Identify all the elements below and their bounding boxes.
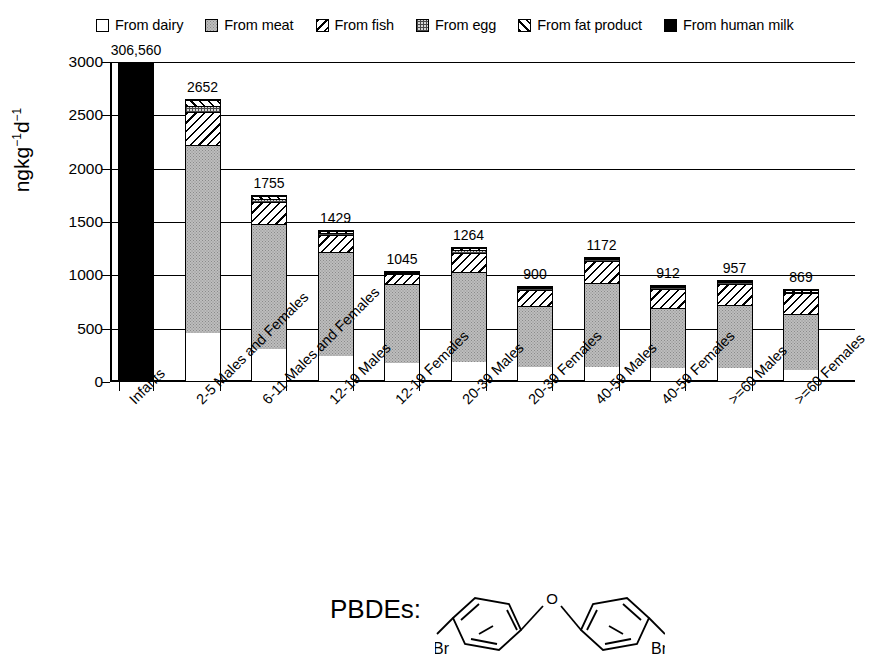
y-axis-tick-label: 2500 [33, 106, 103, 124]
y-axis-tick [102, 275, 110, 276]
legend-item-meat: From meat [205, 17, 293, 33]
legend-item-fish: From fish [316, 17, 395, 33]
oxygen-atom-label: O [546, 590, 558, 607]
bar-segment-meat [585, 283, 619, 367]
y-axis-title: ngkg−1d−1 [10, 108, 34, 193]
legend-item-label: From egg [435, 17, 496, 33]
black-square-icon [664, 19, 677, 32]
bar-segment-fish [585, 261, 619, 284]
y-axis-tick [102, 169, 110, 170]
white-square-icon [96, 19, 109, 32]
legend-item-label: From dairy [115, 17, 183, 33]
bar-segment-meat [186, 145, 220, 334]
bar-segment-meat [784, 314, 818, 369]
bar-4[interactable] [384, 271, 420, 382]
y-axis-tick [102, 62, 110, 63]
bar-7[interactable] [584, 257, 620, 382]
y-axis-tick-label: 2000 [33, 160, 103, 178]
y-axis-tick [102, 329, 110, 330]
legend-item-label: From fat product [537, 17, 642, 33]
x-axis-tick [119, 382, 120, 391]
bar-value-label: 1755 [253, 175, 284, 191]
bar-segment-fish [651, 289, 685, 308]
bar-segment-milk [119, 63, 153, 381]
backslash-hatch-square-icon [316, 19, 329, 32]
y-axis-tick-label: 1500 [33, 213, 103, 231]
legend-item-label: From meat [224, 17, 293, 33]
crosshatch-square-icon [416, 19, 429, 32]
chart-legend: From dairyFrom meatFrom fishFrom eggFrom… [96, 14, 866, 36]
bar-0[interactable] [118, 62, 154, 382]
bar-segment-fish [385, 274, 419, 284]
legend-item-label: From fish [335, 17, 395, 33]
y-axis-tick [102, 222, 110, 223]
bar-10[interactable] [783, 289, 819, 382]
bar-segment-meat [651, 308, 685, 369]
legend-item-label: From human milk [683, 17, 794, 33]
bar-segment-fish [518, 290, 552, 306]
bar-value-label: 1264 [453, 227, 484, 243]
pbdes-label: PBDEs: [330, 594, 421, 625]
forwardslash-hatch-square-icon [518, 19, 531, 32]
molecule-caption-area: PBDEs: O Br Br [330, 572, 660, 662]
bromine-left-label: Br [435, 640, 450, 657]
gray-dotted-square-icon [205, 19, 218, 32]
legend-item-milk: From human milk [664, 17, 794, 33]
bar-5[interactable] [451, 247, 487, 382]
bar-value-label: 1172 [586, 237, 616, 253]
bar-value-label: 1045 [386, 251, 417, 267]
bar-value-label: 900 [523, 266, 546, 282]
bar-segment-fish [252, 202, 286, 224]
bar-8[interactable] [650, 285, 686, 382]
bar-value-label: 869 [789, 269, 812, 285]
y-axis-tick [102, 382, 110, 383]
bar-value-label: 2652 [187, 79, 218, 95]
pbde-structure-icon: O Br Br [435, 572, 665, 660]
bar-segment-fish [452, 253, 486, 272]
legend-item-dairy: From dairy [96, 17, 183, 33]
y-axis-tick-label: 500 [33, 320, 103, 338]
legend-item-egg: From egg [416, 17, 496, 33]
bar-value-label: 912 [656, 265, 679, 281]
bar-segment-fish [186, 112, 220, 145]
bar-value-label: 306,560 [111, 42, 162, 58]
bar-1[interactable] [185, 99, 221, 382]
bar-segment-fish [718, 284, 752, 304]
bar-segment-fish [319, 235, 353, 252]
bar-segment-fish [784, 293, 818, 314]
legend-item-fat: From fat product [518, 17, 642, 33]
bar-segment-meat [518, 306, 552, 368]
bromine-right-label: Br [651, 640, 665, 657]
bar-6[interactable] [517, 286, 553, 382]
plot-area: 050010001500200025003000 306,56026521755… [110, 62, 855, 382]
y-axis-tick-label: 3000 [33, 53, 103, 71]
bar-value-label: 1429 [320, 210, 351, 226]
y-axis-tick-label: 0 [33, 373, 103, 391]
y-axis-tick-label: 1000 [33, 266, 103, 284]
y-axis-tick [102, 115, 110, 116]
bar-value-label: 957 [723, 260, 746, 276]
